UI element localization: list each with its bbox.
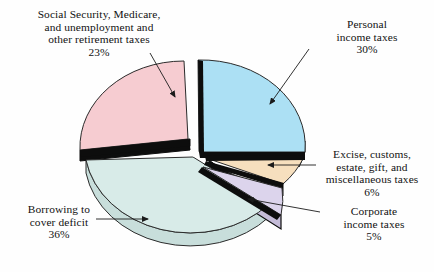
slice-label-borrowing-to-cover-deficit: Borrowing to cover deficit 36% [4,203,114,241]
pie-chart: Social Security, Medicare, and unemploym… [0,0,434,272]
slice-top-personal [198,60,305,152]
slice-edge-personal-left [198,60,204,152]
leader-line-personal [270,49,309,104]
slice-edge-excise-top [205,155,305,161]
slice-label-social-security: Social Security, Medicare, and unemploym… [6,8,192,58]
slice-top-social [80,61,188,150]
slice-center-gap [190,146,199,157]
slice-label-personal-income-taxes: Personal income taxes 30% [308,18,426,56]
slice-label-excise-customs: Excise, customs, estate, gift, and misce… [312,148,432,198]
slice-label-corporate-income-taxes: Corporate income taxes 5% [318,205,430,243]
